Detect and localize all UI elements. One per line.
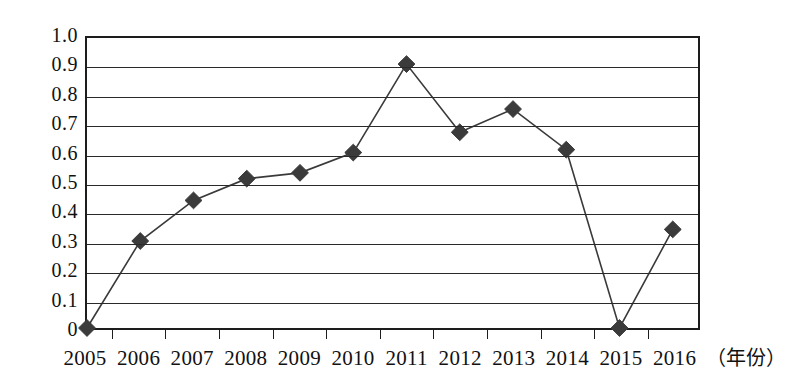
y-tick-label: 0.9 bbox=[6, 54, 78, 74]
x-tick bbox=[648, 330, 649, 339]
gridline bbox=[87, 185, 698, 186]
y-tick-label: 0.4 bbox=[6, 201, 78, 221]
x-tick bbox=[219, 330, 220, 339]
x-tick bbox=[433, 330, 434, 339]
x-tick bbox=[326, 330, 327, 339]
gridline bbox=[87, 214, 698, 215]
plot-area bbox=[85, 36, 700, 330]
data-point-marker bbox=[345, 144, 362, 161]
x-tick-label: 2016 bbox=[635, 343, 715, 373]
x-tick bbox=[487, 330, 488, 339]
data-point-marker bbox=[398, 56, 415, 73]
x-axis-title: （年份） bbox=[706, 343, 786, 373]
gridline bbox=[87, 126, 698, 127]
data-point-marker bbox=[185, 192, 202, 209]
y-axis: 00.10.20.30.40.50.60.70.80.91.0 bbox=[0, 36, 78, 330]
x-axis: 2005200620072008200920102011201220132014… bbox=[0, 343, 812, 377]
y-tick-label: 0.8 bbox=[6, 84, 78, 104]
y-tick-label: 0.3 bbox=[6, 231, 78, 251]
gridline bbox=[87, 67, 698, 68]
x-axis-ticks bbox=[85, 330, 700, 340]
y-tick-label: 0.7 bbox=[6, 113, 78, 133]
data-point-marker bbox=[505, 101, 522, 118]
y-tick-label: 1.0 bbox=[6, 25, 78, 45]
x-tick bbox=[165, 330, 166, 339]
data-point-marker bbox=[664, 221, 681, 238]
gridline bbox=[87, 156, 698, 157]
data-point-marker bbox=[292, 164, 309, 181]
y-tick-label: 0 bbox=[6, 319, 78, 339]
x-tick bbox=[541, 330, 542, 339]
x-tick bbox=[273, 330, 274, 339]
chart-page: 00.10.20.30.40.50.60.70.80.91.0 20052006… bbox=[0, 0, 812, 388]
y-tick-label: 0.5 bbox=[6, 172, 78, 192]
x-tick bbox=[380, 330, 381, 339]
gridline bbox=[87, 273, 698, 274]
y-tick-label: 0.1 bbox=[6, 290, 78, 310]
line-series bbox=[87, 38, 698, 328]
x-tick bbox=[594, 330, 595, 339]
gridline bbox=[87, 97, 698, 98]
series-line bbox=[87, 64, 673, 328]
y-tick-label: 0.2 bbox=[6, 260, 78, 280]
gridline bbox=[87, 244, 698, 245]
x-tick bbox=[112, 330, 113, 339]
y-tick-label: 0.6 bbox=[6, 143, 78, 163]
gridline bbox=[87, 303, 698, 304]
data-point-marker bbox=[132, 233, 149, 250]
